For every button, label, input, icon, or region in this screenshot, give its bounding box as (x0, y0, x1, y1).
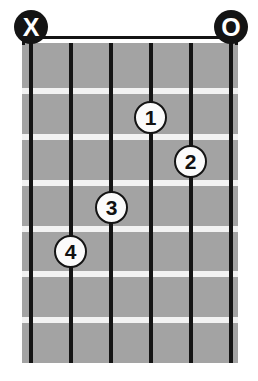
string-line-2 (69, 38, 73, 363)
string-line-5 (189, 38, 193, 363)
open-marker-string-6: O (214, 10, 248, 44)
finger-dot-2: 2 (174, 145, 207, 178)
string-line-6 (229, 38, 233, 363)
fret-line-2 (22, 134, 238, 140)
fret-line-1 (22, 88, 238, 94)
string-line-4 (149, 38, 153, 363)
fret-line-4 (22, 226, 238, 232)
finger-dot-1: 1 (134, 101, 167, 134)
chord-diagram: X O 1 2 3 4 (0, 0, 258, 381)
string-line-1 (29, 38, 33, 363)
mute-marker-string-1: X (14, 10, 48, 44)
fret-line-3 (22, 180, 238, 186)
nut-bar (22, 36, 238, 43)
fret-line-5 (22, 271, 238, 277)
finger-dot-4: 4 (54, 235, 87, 268)
fret-line-6 (22, 317, 238, 323)
finger-dot-3: 3 (95, 191, 128, 224)
